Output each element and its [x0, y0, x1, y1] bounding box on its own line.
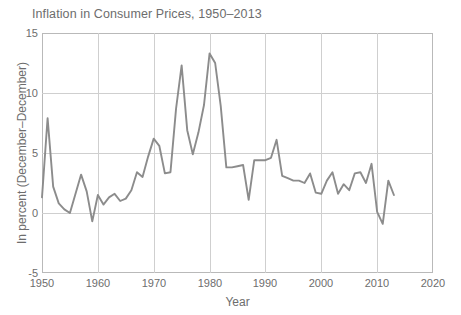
x-axis-tick-label: 2000 — [291, 278, 351, 289]
x-axis-title: Year — [42, 295, 433, 309]
x-axis-tick-label: 2010 — [347, 278, 407, 289]
inflation-series — [42, 33, 433, 273]
inflation-series-line — [42, 53, 394, 223]
x-axis-tick-labels: 19501960197019801990200020102020 — [42, 278, 433, 294]
x-axis-tick-label: 1980 — [180, 278, 240, 289]
x-axis-tick-label: 1950 — [12, 278, 72, 289]
plot-area — [42, 33, 433, 273]
x-axis-tick-label: 2020 — [403, 278, 461, 289]
x-axis-tick-label: 1990 — [235, 278, 295, 289]
x-axis-tick-label: 1960 — [68, 278, 128, 289]
y-axis-title: In percent (December–December) — [15, 33, 29, 273]
inflation-line-chart: Inflation in Consumer Prices, 1950–2013 … — [0, 0, 461, 315]
x-axis-tick-label: 1970 — [124, 278, 184, 289]
chart-title: Inflation in Consumer Prices, 1950–2013 — [32, 6, 262, 22]
